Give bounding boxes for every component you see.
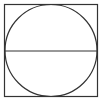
diagram-canvas [0,0,103,100]
